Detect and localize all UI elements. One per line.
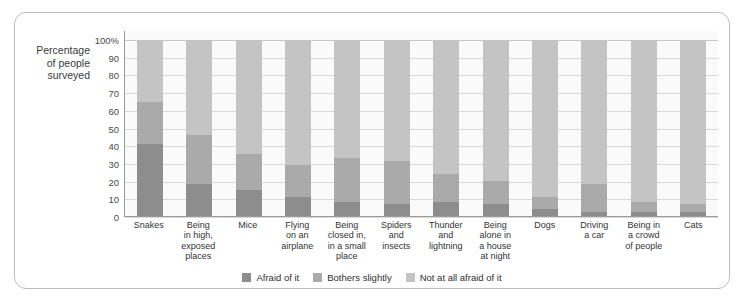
segment-bothers-slightly[interactable] <box>186 135 212 184</box>
segment-bothers-slightly[interactable] <box>433 174 459 202</box>
x-label-line: closed in, <box>322 230 372 240</box>
segment-not-at-all-afraid[interactable] <box>433 40 459 174</box>
segment-afraid-of-it[interactable] <box>532 209 558 216</box>
y-tick-label: 60 <box>108 105 119 116</box>
segment-bothers-slightly[interactable] <box>137 102 163 144</box>
x-label-10: Drivinga car <box>570 220 620 241</box>
legend-item-afraid[interactable]: Afraid of it <box>242 272 299 283</box>
segment-afraid-of-it[interactable] <box>433 202 459 216</box>
x-label-line: Mice <box>223 220 273 230</box>
x-label-line: on an <box>273 230 323 240</box>
y-axis-tick-labels: 100%9080706050403020100 <box>96 31 122 217</box>
segment-bothers-slightly[interactable] <box>680 204 706 213</box>
x-label-line: airplane <box>273 241 323 251</box>
x-label-2: Beingin high,exposedplaces <box>174 220 224 262</box>
segment-not-at-all-afraid[interactable] <box>581 40 607 184</box>
segment-not-at-all-afraid[interactable] <box>680 40 706 204</box>
gridline <box>125 217 718 218</box>
plot-inner <box>125 40 718 216</box>
segment-afraid-of-it[interactable] <box>483 204 509 216</box>
bar-3[interactable] <box>236 40 262 216</box>
segment-not-at-all-afraid[interactable] <box>137 40 163 102</box>
segment-bothers-slightly[interactable] <box>631 202 657 213</box>
segment-afraid-of-it[interactable] <box>186 184 212 216</box>
x-label-line: Dogs <box>520 220 570 230</box>
x-label-line: in a small <box>322 241 372 251</box>
y-tick-label: 20 <box>108 176 119 187</box>
bar-group <box>125 40 718 216</box>
x-label-line: alone in <box>471 230 521 240</box>
segment-bothers-slightly[interactable] <box>236 154 262 189</box>
legend-swatch-icon <box>242 273 251 282</box>
y-tick-label: 0 <box>114 212 119 223</box>
x-label-5: Beingclosed in,in a smallplace <box>322 220 372 262</box>
segment-not-at-all-afraid[interactable] <box>631 40 657 202</box>
y-tick-label: 100% <box>95 35 119 46</box>
x-label-line: insects <box>372 241 422 251</box>
legend-item-none[interactable]: Not at all afraid of it <box>406 272 502 283</box>
x-label-line: exposed <box>174 241 224 251</box>
bar-9[interactable] <box>532 40 558 216</box>
bar-6[interactable] <box>384 40 410 216</box>
x-label-4: Flyingon anairplane <box>273 220 323 251</box>
segment-bothers-slightly[interactable] <box>285 165 311 197</box>
x-label-line: Thunder <box>421 220 471 230</box>
segment-not-at-all-afraid[interactable] <box>384 40 410 161</box>
segment-bothers-slightly[interactable] <box>483 181 509 204</box>
x-label-8: Beingalone ina houseat night <box>471 220 521 262</box>
y-axis-caption-line: Percentage <box>16 44 90 57</box>
y-tick-label: 10 <box>108 194 119 205</box>
legend-swatch-icon <box>313 273 322 282</box>
y-tick-label: 50 <box>108 123 119 134</box>
segment-not-at-all-afraid[interactable] <box>186 40 212 135</box>
x-label-line: Being <box>322 220 372 230</box>
segment-afraid-of-it[interactable] <box>334 202 360 216</box>
y-tick-label: 80 <box>108 70 119 81</box>
x-label-line: place <box>322 251 372 261</box>
segment-not-at-all-afraid[interactable] <box>334 40 360 158</box>
y-tick-label: 30 <box>108 158 119 169</box>
segment-bothers-slightly[interactable] <box>532 197 558 209</box>
y-axis-caption-line: of people <box>16 57 90 70</box>
x-label-line: and <box>372 230 422 240</box>
x-label-line: Snakes <box>124 220 174 230</box>
segment-afraid-of-it[interactable] <box>285 197 311 216</box>
x-label-line: Driving <box>570 220 620 230</box>
bar-2[interactable] <box>186 40 212 216</box>
segment-afraid-of-it[interactable] <box>384 204 410 216</box>
bar-12[interactable] <box>680 40 706 216</box>
x-label-9: Dogs <box>520 220 570 230</box>
bar-4[interactable] <box>285 40 311 216</box>
bar-1[interactable] <box>137 40 163 216</box>
segment-afraid-of-it[interactable] <box>236 190 262 216</box>
segment-afraid-of-it[interactable] <box>680 212 706 216</box>
segment-not-at-all-afraid[interactable] <box>285 40 311 165</box>
segment-not-at-all-afraid[interactable] <box>483 40 509 181</box>
segment-afraid-of-it[interactable] <box>137 144 163 216</box>
x-label-line: a car <box>570 230 620 240</box>
bar-5[interactable] <box>334 40 360 216</box>
x-label-line: at night <box>471 251 521 261</box>
segment-not-at-all-afraid[interactable] <box>236 40 262 154</box>
legend-swatch-icon <box>406 273 415 282</box>
segment-afraid-of-it[interactable] <box>581 212 607 216</box>
segment-not-at-all-afraid[interactable] <box>532 40 558 197</box>
bar-10[interactable] <box>581 40 607 216</box>
fear-survey-chart-figure: Percentageof peoplesurveyed 100%90807060… <box>0 0 744 301</box>
bar-8[interactable] <box>483 40 509 216</box>
segment-afraid-of-it[interactable] <box>631 212 657 216</box>
plot-area <box>124 31 718 217</box>
x-label-1: Snakes <box>124 220 174 230</box>
x-label-line: Spiders <box>372 220 422 230</box>
legend-item-slight[interactable]: Bothers slightly <box>313 272 391 283</box>
segment-bothers-slightly[interactable] <box>581 184 607 212</box>
bar-11[interactable] <box>631 40 657 216</box>
segment-bothers-slightly[interactable] <box>334 158 360 202</box>
x-label-line: Flying <box>273 220 323 230</box>
y-tick-label: 70 <box>108 88 119 99</box>
bar-7[interactable] <box>433 40 459 216</box>
x-label-7: Thunderandlightning <box>421 220 471 251</box>
x-label-11: Being ina crowdof people <box>619 220 669 251</box>
segment-bothers-slightly[interactable] <box>384 161 410 203</box>
legend-label: Not at all afraid of it <box>420 272 502 283</box>
